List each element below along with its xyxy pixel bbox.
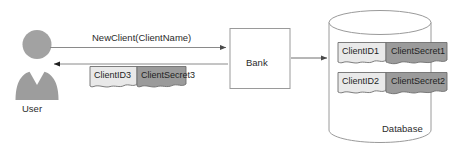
db-record-row-1-clientid1 — [338, 43, 386, 64]
response-document-clientid3 — [90, 67, 137, 88]
db-record-row-1-clientsecret1 — [386, 43, 447, 64]
request-message-label: NewClient(ClientName) — [92, 33, 191, 43]
user-avatar-icon — [16, 30, 59, 100]
database-label: Database — [382, 124, 423, 134]
response-document-clientsecret3 — [137, 67, 186, 88]
user-label: User — [22, 104, 42, 114]
diagram-canvas: NewClient(ClientName) User Bank Database… — [0, 0, 464, 152]
bank-label: Bank — [246, 58, 268, 68]
db-record-row-2-clientid2 — [338, 73, 386, 94]
db-record-row-2-clientsecret2 — [386, 73, 447, 94]
